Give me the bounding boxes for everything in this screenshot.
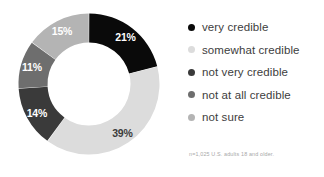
donut-slice-value-label: 39%	[112, 127, 133, 139]
chart-legend: very crediblesomewhat crediblenot very c…	[188, 16, 324, 129]
legend-item[interactable]: not at all credible	[188, 84, 324, 107]
legend-item-label: very credible	[202, 21, 269, 33]
donut-chart-svg: 21%39%14%11%15%	[16, 11, 162, 157]
legend-item-label: somewhat credible	[202, 44, 300, 56]
legend-bullet-icon	[188, 24, 195, 31]
donut-chart-area: 21%39%14%11%15%	[16, 11, 162, 157]
legend-bullet-icon	[188, 91, 195, 98]
legend-item-label: not sure	[202, 111, 244, 123]
donut-slice[interactable]	[48, 67, 160, 155]
donut-slice-value-label: 21%	[115, 31, 136, 43]
legend-item-label: not at all credible	[202, 89, 291, 101]
legend-item-label: not very credible	[202, 66, 288, 78]
legend-item[interactable]: very credible	[188, 16, 324, 39]
donut-slice-value-label: 15%	[52, 25, 73, 37]
donut-slice-group	[19, 14, 160, 155]
legend-item[interactable]: not very credible	[188, 61, 324, 84]
legend-bullet-icon	[188, 69, 195, 76]
donut-chart-figure: 21%39%14%11%15% very crediblesomewhat cr…	[0, 0, 324, 177]
donut-slice-value-label: 11%	[22, 61, 43, 73]
donut-slice[interactable]	[89, 14, 157, 74]
legend-item[interactable]: not sure	[188, 106, 324, 129]
legend-item[interactable]: somewhat credible	[188, 39, 324, 62]
chart-footnote: n=1,025 U.S. adults 18 and older.	[189, 151, 274, 157]
legend-bullet-icon	[188, 46, 195, 53]
legend-bullet-icon	[188, 114, 195, 121]
donut-slice-value-label: 14%	[27, 107, 48, 119]
